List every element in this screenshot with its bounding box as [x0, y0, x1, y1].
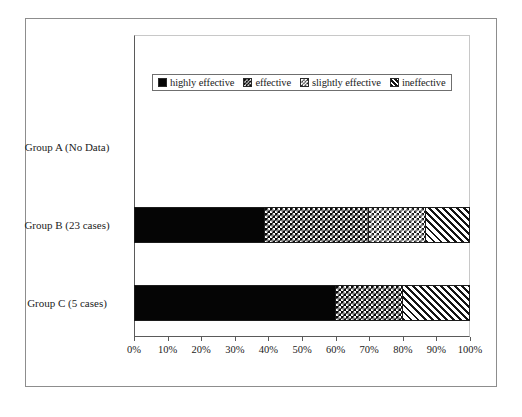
diagonal-hatch-swatch-icon	[390, 78, 399, 87]
bar-segment-b-ineffective[interactable]	[426, 207, 470, 243]
legend-item-effective[interactable]: effective	[243, 77, 291, 88]
legend-label-ineffective: ineffective	[402, 77, 446, 88]
x-axis-tick	[201, 337, 202, 341]
x-axis-tick	[470, 337, 471, 341]
bar-group-c	[134, 285, 470, 321]
bar-segment-c-effective[interactable]	[336, 285, 403, 321]
legend-label-effective: effective	[255, 77, 291, 88]
y-axis-label-group-b: Group B (23 cases)	[4, 219, 130, 232]
bar-segment-b-slightly-effective[interactable]	[369, 207, 426, 243]
chart-legend: highly effective effective slightly effe…	[152, 74, 452, 91]
bar-segment-c-ineffective[interactable]	[403, 285, 470, 321]
bar-segment-b-highly-effective[interactable]	[134, 207, 265, 243]
legend-item-highly-effective[interactable]: highly effective	[158, 77, 234, 88]
x-axis-tick	[369, 337, 370, 341]
x-axis-tick	[235, 337, 236, 341]
stacked-bar-chart: highly effective effective slightly effe…	[0, 0, 522, 417]
x-axis-tick	[268, 337, 269, 341]
x-axis-tick	[436, 337, 437, 341]
dark-checkerboard-swatch-icon	[243, 78, 252, 87]
bar-segment-b-effective[interactable]	[265, 207, 369, 243]
legend-item-ineffective[interactable]: ineffective	[390, 77, 446, 88]
legend-item-slightly-effective[interactable]: slightly effective	[300, 77, 381, 88]
x-axis-tick	[302, 337, 303, 341]
x-axis-tick	[134, 337, 135, 341]
y-axis-label-group-a: Group A (No Data)	[4, 141, 130, 154]
bar-group-a	[134, 118, 470, 154]
light-checkerboard-swatch-icon	[300, 78, 309, 87]
legend-label-highly-effective: highly effective	[170, 77, 234, 88]
x-axis-tick	[168, 337, 169, 341]
y-axis-label-group-c: Group C (5 cases)	[4, 297, 130, 310]
x-axis-tick	[336, 337, 337, 341]
x-axis-tick-label: 100%	[448, 343, 492, 356]
x-axis-tick	[403, 337, 404, 341]
legend-label-slightly-effective: slightly effective	[312, 77, 381, 88]
bar-group-b	[134, 207, 470, 243]
solid-black-swatch-icon	[158, 78, 167, 87]
bar-segment-c-highly-effective[interactable]	[134, 285, 336, 321]
